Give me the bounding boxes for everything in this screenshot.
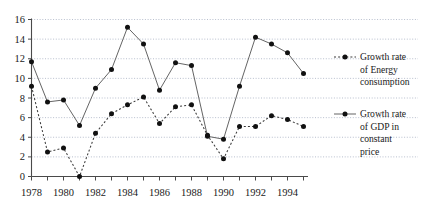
- x-tick-label-1986: 1986: [149, 187, 170, 198]
- data-point-gdp-1984: [125, 25, 130, 30]
- data-point-gdp-1978: [29, 59, 34, 64]
- legend-label-0-line-2: consumption: [360, 76, 410, 87]
- legend-label-1-line-2: constant: [360, 133, 392, 144]
- data-point-gdp-1981: [77, 123, 82, 128]
- y-tick-label-10: 10: [15, 73, 26, 84]
- data-point-energy-1981: [77, 174, 82, 179]
- data-point-gdp-1988: [189, 63, 194, 68]
- x-tick-label-1994: 1994: [277, 187, 299, 198]
- data-point-energy-1990: [221, 156, 226, 161]
- legend-swatch-marker-0: [343, 55, 348, 60]
- series-gdp: [29, 25, 306, 142]
- data-point-gdp-1980: [61, 97, 66, 102]
- y-tick-label-8: 8: [20, 93, 25, 104]
- data-point-energy-1984: [125, 102, 130, 107]
- y-axis: [28, 19, 32, 177]
- legend-item-1: Growth rateof GDP inconstantprice: [334, 108, 406, 156]
- legend-swatch-marker-1: [343, 112, 348, 117]
- x-tick-label-1990: 1990: [213, 187, 234, 198]
- chart-container: 0246810121416 19781980198219841986198819…: [0, 0, 428, 212]
- x-tick-label-1980: 1980: [53, 187, 74, 198]
- data-point-gdp-1994: [285, 50, 290, 55]
- data-point-energy-1978: [29, 84, 34, 89]
- data-point-energy-1980: [61, 146, 66, 151]
- x-tick-label-1984: 1984: [117, 187, 139, 198]
- x-axis: [32, 177, 309, 181]
- x-tick-label-1978: 1978: [21, 187, 42, 198]
- data-point-energy-1992: [253, 124, 258, 129]
- y-tick-label-6: 6: [20, 112, 25, 123]
- data-point-energy-1983: [109, 111, 114, 116]
- legend-label-0-line-0: Growth rate: [360, 51, 406, 62]
- legend-label-1-line-3: price: [360, 146, 379, 157]
- legend-label-1-line-1: of GDP in: [360, 121, 399, 132]
- y-tick-label-2: 2: [20, 151, 25, 162]
- data-point-energy-1987: [173, 104, 178, 109]
- y-tick-label-14: 14: [15, 34, 26, 45]
- data-point-gdp-1985: [141, 42, 146, 47]
- x-tick-label-1992: 1992: [245, 187, 266, 198]
- data-point-gdp-1991: [237, 84, 242, 89]
- y-tick-labels: 0246810121416: [15, 14, 26, 182]
- x-tick-labels: 197819801982198419861988199019921994: [21, 187, 299, 198]
- legend-item-0: Growth rateof Energyconsumption: [334, 51, 410, 87]
- legend: Growth rateof EnergyconsumptionGrowth ra…: [334, 51, 410, 156]
- data-point-gdp-1995: [301, 71, 306, 76]
- data-point-gdp-1986: [157, 88, 162, 93]
- data-point-gdp-1979: [45, 99, 50, 104]
- data-point-energy-1982: [93, 131, 98, 136]
- legend-label-1-line-0: Growth rate: [360, 108, 406, 119]
- data-point-energy-1994: [285, 117, 290, 122]
- y-tick-label-0: 0: [20, 171, 25, 182]
- data-point-energy-1989: [205, 133, 210, 138]
- data-point-energy-1988: [189, 102, 194, 107]
- legend-label-0-line-1: of Energy: [360, 64, 398, 75]
- data-point-energy-1986: [157, 121, 162, 126]
- data-point-energy-1995: [301, 124, 306, 129]
- data-point-gdp-1982: [93, 86, 98, 91]
- series-line-energy: [32, 86, 304, 176]
- data-point-gdp-1987: [173, 60, 178, 65]
- data-point-gdp-1983: [109, 67, 114, 72]
- y-tick-label-12: 12: [15, 53, 26, 64]
- y-tick-label-16: 16: [15, 14, 26, 25]
- data-point-energy-1985: [141, 95, 146, 100]
- x-tick-label-1982: 1982: [85, 187, 106, 198]
- data-point-energy-1991: [237, 124, 242, 129]
- y-tick-label-4: 4: [20, 132, 26, 143]
- series-line-gdp: [32, 27, 304, 139]
- data-point-gdp-1990: [221, 137, 226, 142]
- data-point-energy-1993: [269, 113, 274, 118]
- line-chart: 0246810121416 19781980198219841986198819…: [0, 0, 428, 212]
- data-point-gdp-1992: [253, 35, 258, 40]
- x-tick-label-1988: 1988: [181, 187, 202, 198]
- data-point-gdp-1993: [269, 42, 274, 47]
- data-point-energy-1979: [45, 149, 50, 154]
